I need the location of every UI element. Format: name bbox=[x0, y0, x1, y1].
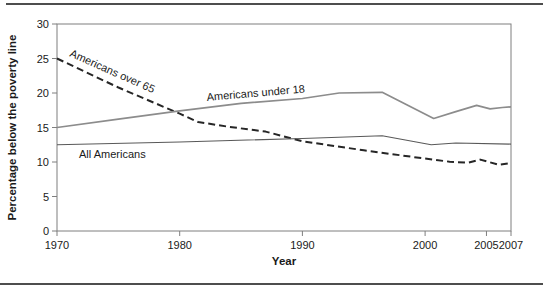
bottom-horizontal-rule bbox=[0, 283, 543, 285]
y-tick-label: 20 bbox=[37, 87, 49, 99]
x-tick-label: 2007 bbox=[499, 239, 523, 251]
x-tick-label: 1970 bbox=[45, 239, 69, 251]
x-tick-label: 1990 bbox=[290, 239, 314, 251]
plot-frame bbox=[57, 24, 511, 231]
line-americans-under-18 bbox=[57, 92, 511, 127]
y-tick-label: 25 bbox=[37, 53, 49, 65]
label-all-americans: All Americans bbox=[79, 148, 146, 160]
x-tick-label: 2005 bbox=[474, 239, 498, 251]
y-axis-title: Percentage below the poverty line bbox=[6, 35, 18, 221]
x-tick-label: 1980 bbox=[167, 239, 191, 251]
x-axis-title: Year bbox=[272, 255, 297, 267]
y-tick-label: 5 bbox=[43, 191, 49, 203]
poverty-line-chart: 051015202530197019801990200020052007Perc… bbox=[0, 0, 543, 289]
y-tick-label: 0 bbox=[43, 225, 49, 237]
y-tick-label: 30 bbox=[37, 18, 49, 30]
x-tick-label: 2000 bbox=[413, 239, 437, 251]
y-tick-label: 10 bbox=[37, 156, 49, 168]
page: 051015202530197019801990200020052007Perc… bbox=[0, 0, 543, 289]
y-tick-label: 15 bbox=[37, 122, 49, 134]
